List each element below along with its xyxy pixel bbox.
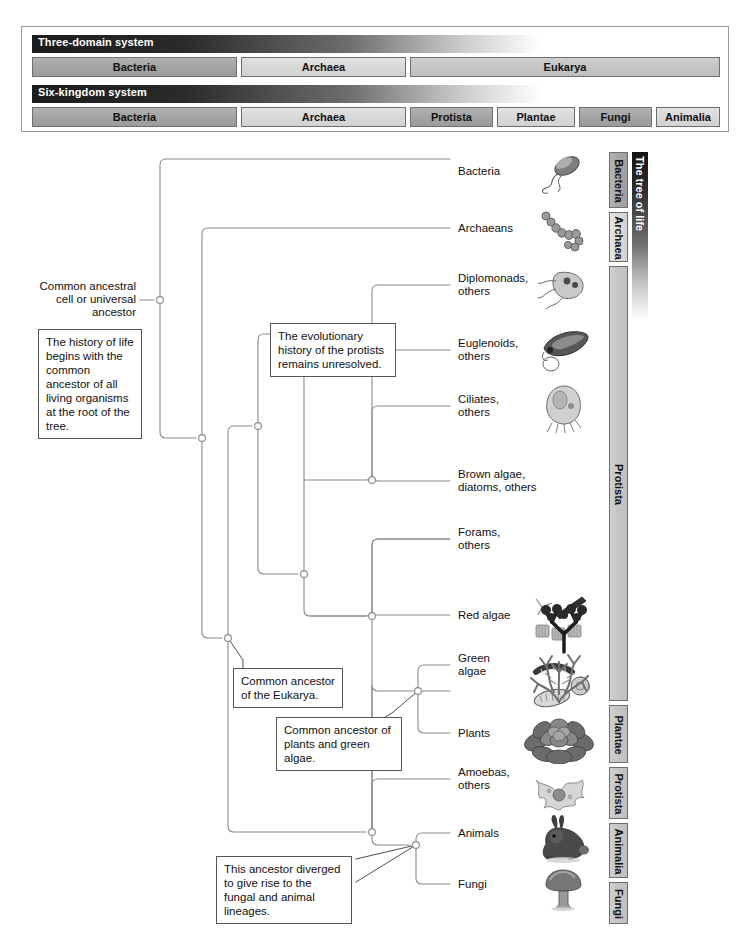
green-algae-icon: [524, 648, 594, 704]
plant-icon: [524, 710, 594, 764]
note-protists: The evolutionary history of the protists…: [270, 323, 396, 377]
kingdom-bar-fungi[interactable]: Fungi: [579, 107, 652, 127]
kingdom-bar-animalia-label: Animalia: [665, 111, 711, 123]
note-eukarya: Common ancestor of the Eukarya.: [233, 668, 343, 708]
leaf-label-diplomonads: Diplomonads, others: [458, 272, 528, 298]
diplomonad-icon: [534, 265, 592, 311]
domain-bar-archaea-label: Archaea: [302, 61, 345, 73]
domain-bar-archaea[interactable]: Archaea: [241, 57, 406, 77]
note-plants-green-algae: Common ancestor of plants and green alga…: [276, 717, 402, 771]
rail-bar-fungi[interactable]: Fungi: [609, 882, 628, 924]
six-kingdom-system-block: Six-kingdom system Bacteria Archaea Prot…: [32, 85, 720, 127]
rail-bar-plantae[interactable]: Plantae: [609, 705, 628, 763]
leaf-label-amoebas: Amoebas, others: [458, 766, 510, 792]
six-kingdom-system-title: Six-kingdom system: [38, 86, 147, 98]
three-domain-system-block: Three-domain system Bacteria Archaea Euk…: [32, 35, 720, 77]
rabbit-icon: [532, 812, 594, 864]
kingdom-bar-archaea[interactable]: Archaea: [241, 107, 406, 127]
domain-bar-bacteria-label: Bacteria: [113, 61, 156, 73]
amoeba-icon: [530, 772, 592, 816]
leaf-label-plants: Plants: [458, 727, 490, 740]
archaean-chain-icon: [534, 210, 592, 256]
leaf-label-fungi: Fungi: [458, 878, 487, 891]
leaf-label-forams: Forams, others: [458, 526, 500, 552]
leaf-label-euglenoids: Euglenoids, others: [458, 337, 518, 363]
rail-bar-archaea[interactable]: Archaea: [609, 212, 628, 262]
rail-bar-bacteria-label: Bacteria: [610, 153, 627, 209]
three-domain-system-header: Three-domain system: [32, 35, 720, 53]
kingdom-bar-bacteria-label: Bacteria: [113, 111, 156, 123]
kingdom-bar-protista[interactable]: Protista: [410, 107, 493, 127]
leaf-label-bacteria: Bacteria: [458, 165, 500, 178]
six-kingdom-system-header: Six-kingdom system: [32, 85, 720, 103]
mushroom-icon: [540, 868, 588, 912]
rail-bar-protista-upper-label: Protista: [610, 267, 627, 702]
rail-bar-protista-lower-label: Protista: [610, 768, 627, 820]
tree-of-life-title: The tree of life: [632, 152, 648, 352]
domain-bar-eukarya[interactable]: Eukarya: [410, 57, 720, 77]
rail-bar-protista-upper[interactable]: Protista: [609, 266, 628, 701]
leaf-label-archaeans: Archaeans: [458, 222, 513, 235]
kingdom-bar-plantae-label: Plantae: [516, 111, 555, 123]
rail-bar-bacteria[interactable]: Bacteria: [609, 152, 628, 208]
root-label: Common ancestral cell or universal ances…: [30, 280, 136, 319]
kingdom-bar-fungi-label: Fungi: [601, 111, 631, 123]
kingdom-bar-archaea-label: Archaea: [302, 111, 345, 123]
domain-bar-eukarya-label: Eukarya: [544, 61, 587, 73]
leaf-label-brown-algae: Brown algae, diatoms, others: [458, 468, 537, 494]
rail-bar-archaea-label: Archaea: [610, 213, 627, 263]
bacterium-icon: [534, 152, 594, 198]
tree-of-life-title-bar: The tree of life: [632, 152, 648, 352]
classification-panel: Three-domain system Bacteria Archaea Euk…: [21, 26, 729, 132]
three-domain-bar-row: Bacteria Archaea Eukarya: [32, 57, 720, 77]
note-fungal-animal: This ancestor diverged to give rise to t…: [216, 856, 352, 924]
kingdom-bar-animalia[interactable]: Animalia: [656, 107, 720, 127]
rail-bar-animalia[interactable]: Animalia: [609, 823, 628, 878]
euglenoid-icon: [532, 326, 594, 374]
three-domain-system-title: Three-domain system: [38, 36, 154, 48]
leaf-label-ciliates: Ciliates, others: [458, 393, 499, 419]
kingdom-bar-plantae[interactable]: Plantae: [497, 107, 575, 127]
leaf-label-green-algae: Green algae: [458, 652, 490, 678]
ciliate-icon: [536, 382, 592, 434]
domain-bar-bacteria[interactable]: Bacteria: [32, 57, 237, 77]
rail-bar-plantae-label: Plantae: [610, 706, 627, 764]
leaf-label-animals: Animals: [458, 827, 499, 840]
kingdom-bar-bacteria[interactable]: Bacteria: [32, 107, 237, 127]
note-root: The history of life begins with the comm…: [38, 329, 142, 439]
leaf-label-red-algae: Red algae: [458, 609, 510, 622]
kingdom-bar-protista-label: Protista: [431, 111, 472, 123]
six-kingdom-bar-row: Bacteria Archaea Protista Plantae Fungi …: [32, 107, 720, 127]
rail-bar-fungi-label: Fungi: [610, 883, 627, 925]
rail-bar-animalia-label: Animalia: [610, 824, 627, 879]
rail-bar-protista-lower[interactable]: Protista: [609, 767, 628, 819]
red-algae-icon: [536, 600, 592, 654]
